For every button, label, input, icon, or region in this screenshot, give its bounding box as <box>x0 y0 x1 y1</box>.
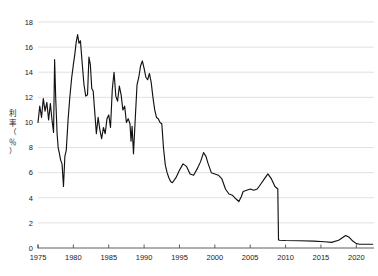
x-tick-label: 1975 <box>30 253 47 262</box>
y-tick-label: 12 <box>25 93 33 102</box>
y-tick-label: 0 <box>29 244 33 253</box>
y-axis-title-char: 率 <box>9 118 17 128</box>
series-line <box>38 35 373 245</box>
interest-rate-chart: 024681012141618 197519801985199019952000… <box>0 0 378 276</box>
x-axis-tick-labels: 1975198019851990199520002005201020152020 <box>30 253 365 262</box>
y-tick-label: 18 <box>25 18 33 27</box>
y-axis-title-char: ） <box>9 147 16 156</box>
chart-canvas: 024681012141618 197519801985199019952000… <box>0 0 378 276</box>
x-axis <box>38 245 374 249</box>
gridlines <box>38 22 374 223</box>
x-tick-label: 1995 <box>171 253 188 262</box>
y-tick-label: 6 <box>29 168 33 177</box>
y-tick-label: 14 <box>25 68 33 77</box>
data-series <box>38 35 373 245</box>
y-tick-label: 16 <box>25 43 33 52</box>
x-tick-label: 2010 <box>277 253 294 262</box>
x-tick-label: 2005 <box>242 253 259 262</box>
x-tick-label: 2020 <box>348 253 365 262</box>
y-tick-label: 2 <box>29 219 33 228</box>
y-tick-label: 8 <box>29 143 33 152</box>
x-tick-label: 1980 <box>65 253 82 262</box>
y-axis-title-char: ％ <box>9 138 16 147</box>
x-tick-label: 1985 <box>100 253 117 262</box>
x-tick-label: 1990 <box>136 253 153 262</box>
y-axis-title-char: （ <box>9 128 17 137</box>
y-axis-title: 利率（％） <box>9 108 17 156</box>
x-tick-label: 2000 <box>206 253 223 262</box>
y-tick-label: 4 <box>29 194 33 203</box>
y-axis-tick-labels: 024681012141618 <box>25 18 33 253</box>
y-axis-title-char: 利 <box>9 108 16 118</box>
y-tick-label: 10 <box>25 118 33 127</box>
x-tick-label: 2015 <box>313 253 330 262</box>
